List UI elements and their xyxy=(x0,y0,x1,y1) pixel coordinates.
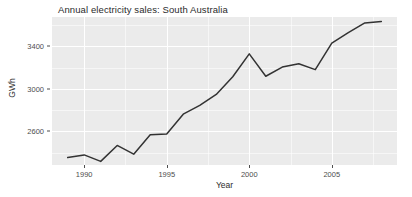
x-axis-title: Year xyxy=(52,180,397,190)
y-tick-label: 3000 xyxy=(27,84,44,93)
y-tick-label: 3400 xyxy=(27,42,44,51)
x-tick-label: 2000 xyxy=(241,170,258,179)
x-tick-mark xyxy=(332,165,333,168)
y-tick-mark xyxy=(47,131,50,132)
plot-panel xyxy=(52,17,397,165)
y-axis-title: GWh xyxy=(7,68,17,108)
x-tick-mark xyxy=(84,165,85,168)
x-tick-label: 1995 xyxy=(158,170,175,179)
chart-container: Annual electricity sales: South Australi… xyxy=(0,0,412,197)
x-tick-mark xyxy=(167,165,168,168)
x-tick-label: 1990 xyxy=(76,170,93,179)
y-tick-label: 2600 xyxy=(27,127,44,136)
x-tick-label: 2005 xyxy=(323,170,340,179)
x-axis-tick-labels: 1990199520002005 xyxy=(52,165,397,181)
data-series-line xyxy=(52,17,397,165)
x-tick-mark xyxy=(249,165,250,168)
y-tick-mark xyxy=(47,88,50,89)
y-tick-mark xyxy=(47,46,50,47)
chart-title: Annual electricity sales: South Australi… xyxy=(58,4,228,15)
